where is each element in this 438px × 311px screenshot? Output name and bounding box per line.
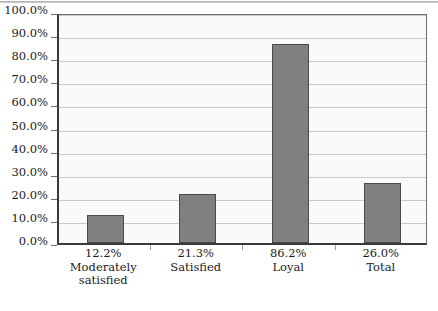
bar-slot — [59, 15, 152, 243]
x-axis-label-line: Satisfied — [150, 261, 243, 275]
y-axis-tick-mark — [51, 245, 57, 246]
x-axis-separator — [335, 245, 336, 250]
bar-series — [59, 15, 426, 243]
y-axis-tick-label: 10.0% — [11, 213, 48, 225]
x-axis-category-label: 86.2%Loyal — [242, 247, 335, 274]
x-axis: 12.2%Moderatelysatisfied21.3%Satisfied86… — [57, 247, 427, 309]
x-axis-category-label: 12.2%Moderatelysatisfied — [57, 247, 150, 288]
y-axis-tick-label: 40.0% — [11, 144, 48, 156]
x-axis-label-line: 12.2% — [57, 247, 150, 261]
y-axis: 100.0%90.0%80.0%70.0%60.0%50.0%40.0%30.0… — [0, 14, 57, 245]
y-axis-tick-label: 30.0% — [11, 167, 48, 179]
bar-chart: 100.0%90.0%80.0%70.0%60.0%50.0%40.0%30.0… — [0, 0, 438, 311]
x-axis-label-line: 86.2% — [242, 247, 335, 261]
bar-slot — [337, 15, 430, 243]
x-axis-label-line: 26.0% — [335, 247, 428, 261]
x-axis-label-line: Moderately — [57, 261, 150, 275]
y-axis-tick-label: 50.0% — [11, 121, 48, 133]
y-axis-tick-label: 20.0% — [11, 190, 48, 202]
y-axis-tick-label: 0.0% — [19, 236, 48, 248]
y-axis-tick-label: 60.0% — [11, 97, 48, 109]
x-axis-category-label: 26.0%Total — [335, 247, 428, 274]
x-axis-label-line: Total — [335, 261, 428, 275]
bar-slot — [152, 15, 245, 243]
x-axis-separator — [242, 245, 243, 250]
bar[interactable] — [272, 44, 309, 243]
y-axis-tick-label: 90.0% — [11, 28, 48, 40]
bar-slot — [244, 15, 337, 243]
x-axis-separator — [150, 245, 151, 250]
x-axis-category-label: 21.3%Satisfied — [150, 247, 243, 274]
plot-area — [57, 14, 427, 245]
y-axis-tick-label: 70.0% — [11, 74, 48, 86]
bar[interactable] — [364, 183, 401, 243]
x-axis-label-line: 21.3% — [150, 247, 243, 261]
bar[interactable] — [179, 194, 216, 243]
bar[interactable] — [87, 215, 124, 243]
y-axis-tick-label: 100.0% — [4, 5, 48, 17]
x-axis-label-line: Loyal — [242, 261, 335, 275]
y-axis-tick-label: 80.0% — [11, 51, 48, 63]
x-axis-label-line: satisfied — [57, 274, 150, 288]
